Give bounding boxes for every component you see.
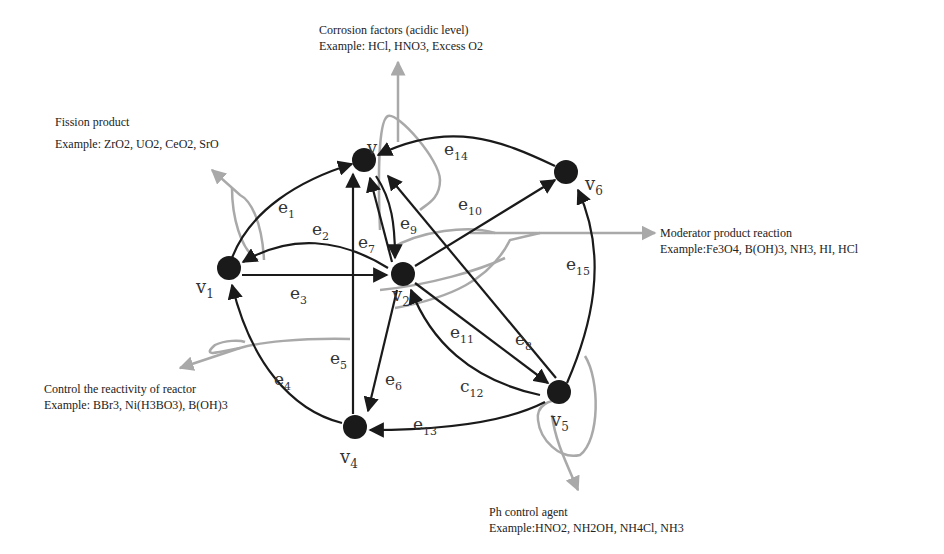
edge-labels: e1 e2 e3 e4 e5 e6 e7 e8 e9 e10 e11 c12 e… bbox=[274, 139, 590, 438]
annotation-corrosion-title: Corrosion factors (acidic level) bbox=[319, 22, 483, 38]
node-v6 bbox=[554, 160, 578, 184]
graph-canvas: v1 v2 v v4 v5 v6 e1 e2 e3 e4 e5 e6 e7 e8… bbox=[0, 0, 944, 554]
edge-e15 bbox=[567, 190, 595, 383]
node-label-v4: v4 bbox=[339, 446, 358, 471]
edge-label-e15: e15 bbox=[566, 254, 590, 278]
node-v4 bbox=[343, 415, 367, 439]
edge-label-e3: e3 bbox=[290, 283, 307, 307]
edge-label-e14: e14 bbox=[444, 139, 468, 163]
edge-label-e4: e4 bbox=[274, 369, 291, 393]
annotation-ph: Ph control agent Example:HNO2, NH2OH, NH… bbox=[489, 504, 684, 536]
annotation-fission-title: Fission product bbox=[55, 114, 219, 130]
edge-label-e7: e7 bbox=[358, 232, 375, 256]
annotation-moderator-example: Example:Fe3O4, B(OH)3, NH3, HI, HCl bbox=[660, 241, 858, 257]
annotation-control-example: Example: BBr3, Ni(H3BO3), B(OH)3 bbox=[44, 397, 228, 413]
node-v2 bbox=[391, 262, 415, 286]
edge-e13 bbox=[370, 402, 545, 430]
annotation-fission: Fission product Example: ZrO2, UO2, CeO2… bbox=[55, 114, 219, 152]
edge-label-e5: e5 bbox=[330, 348, 347, 372]
annotation-control: Control the reactivity of reactor Exampl… bbox=[44, 381, 228, 413]
annotation-moderator: Moderator product reaction Example:Fe3O4… bbox=[660, 225, 858, 257]
annotation-corrosion: Corrosion factors (acidic level) Example… bbox=[319, 22, 483, 54]
edge-label-e2: e2 bbox=[312, 219, 329, 243]
ph-loop bbox=[538, 356, 596, 456]
edge-label-e13: e13 bbox=[413, 414, 437, 438]
control-branch bbox=[210, 341, 245, 353]
node-label-v5: v5 bbox=[550, 409, 569, 434]
annotation-ph-example: Example:HNO2, NH2OH, NH4Cl, NH3 bbox=[489, 520, 684, 536]
node-label-v3: v bbox=[366, 137, 378, 158]
annotation-fission-example: Example: ZrO2, UO2, CeO2, SrO bbox=[55, 136, 219, 152]
annotation-ph-title: Ph control agent bbox=[489, 504, 684, 520]
edge-label-e6: e6 bbox=[385, 369, 402, 393]
edge-label-e1: e1 bbox=[278, 197, 295, 221]
node-label-v1: v1 bbox=[195, 276, 214, 301]
edge-label-e12: c12 bbox=[460, 376, 484, 400]
annotation-moderator-title: Moderator product reaction bbox=[660, 225, 858, 241]
edge-label-e9: e9 bbox=[400, 213, 417, 237]
annotation-corrosion-example: Example: HCl, HNO3, Excess O2 bbox=[319, 38, 483, 54]
edge-label-e8: e8 bbox=[515, 329, 532, 353]
edge-e4 bbox=[232, 285, 342, 423]
node-v5 bbox=[547, 380, 571, 404]
edge-label-e10: e10 bbox=[458, 194, 482, 218]
annotation-control-title: Control the reactivity of reactor bbox=[44, 381, 228, 397]
node-label-v6: v6 bbox=[584, 173, 603, 198]
node-v1 bbox=[217, 256, 241, 280]
edge-e6 bbox=[368, 290, 397, 411]
